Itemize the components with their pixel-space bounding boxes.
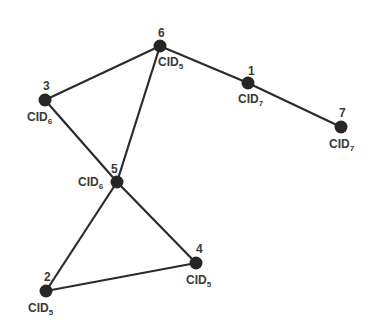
node-5: 5CID6 <box>78 162 124 191</box>
edge-6-5 <box>117 46 160 182</box>
node-id-label: 4 <box>196 242 203 256</box>
cluster-graph-diagram: 1CID72CID53CID64CID55CID66CID57CID7 <box>0 0 374 333</box>
nodes-group: 1CID72CID53CID64CID55CID66CID57CID7 <box>27 26 355 317</box>
node-id-label: 2 <box>44 270 51 284</box>
node-id-label: 7 <box>339 106 346 120</box>
node-1: 1CID7 <box>238 64 264 108</box>
node-id-label: 1 <box>248 64 255 78</box>
node-id-label: 6 <box>158 26 165 40</box>
cluster-id-label: CID6 <box>78 175 104 191</box>
node-id-label: 3 <box>43 79 50 93</box>
node-dot <box>39 94 52 107</box>
node-4: 4CID5 <box>186 242 212 289</box>
node-dot <box>335 121 348 134</box>
node-id-label: 5 <box>111 162 118 176</box>
cluster-id-label: CID5 <box>186 273 212 289</box>
node-dot <box>111 176 124 189</box>
node-dot <box>40 285 53 298</box>
cluster-id-label: CID7 <box>329 137 355 153</box>
edge-5-2 <box>46 182 117 291</box>
edge-3-5 <box>45 100 117 182</box>
edge-5-4 <box>117 182 196 263</box>
edge-2-4 <box>46 263 196 291</box>
node-dot <box>242 77 255 90</box>
node-dot <box>190 257 203 270</box>
cluster-id-label: CID7 <box>238 92 264 108</box>
node-dot <box>154 40 167 53</box>
node-2: 2CID5 <box>28 270 54 317</box>
node-7: 7CID7 <box>329 106 355 153</box>
cluster-id-label: CID6 <box>27 110 53 126</box>
cluster-id-label: CID5 <box>28 301 54 317</box>
edges-group <box>45 46 341 291</box>
edge-6-3 <box>45 46 160 100</box>
cluster-id-label: CID5 <box>158 55 184 71</box>
node-3: 3CID6 <box>27 79 53 126</box>
